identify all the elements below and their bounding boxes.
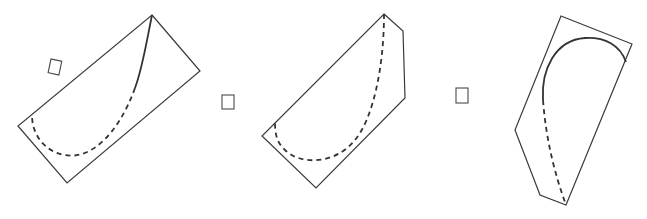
curve-c-dashed bbox=[543, 100, 566, 205]
shape-c-outline bbox=[515, 16, 632, 205]
curve-c-solid bbox=[543, 38, 626, 100]
diagram-canvas bbox=[0, 0, 647, 219]
shape-a-outline bbox=[18, 15, 200, 183]
curve-a-dashed bbox=[32, 88, 135, 156]
curve-b-dashed bbox=[275, 14, 384, 160]
shape-b-outline bbox=[262, 14, 405, 188]
answer-box-a[interactable] bbox=[48, 59, 62, 75]
answer-box-c[interactable] bbox=[456, 88, 468, 103]
answer-box-b[interactable] bbox=[222, 95, 234, 109]
curve-a-solid bbox=[135, 15, 152, 88]
figure-c bbox=[456, 16, 632, 205]
figure-a bbox=[18, 15, 200, 183]
figure-b bbox=[222, 14, 405, 188]
